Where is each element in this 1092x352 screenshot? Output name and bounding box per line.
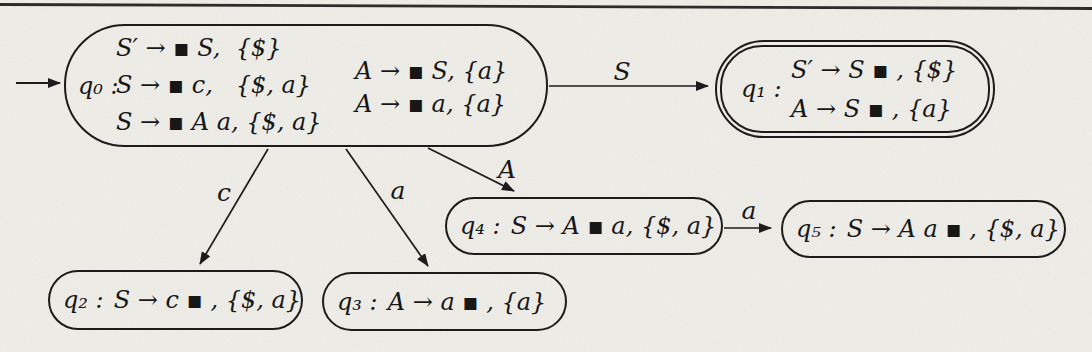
state-q0: q₀ : S′ → ▪ S, {$} S → ▪ c, {$, a} S → ▪… (64, 24, 548, 147)
state-q1-accepting: q₁ : S′ → S ▪ , {$} A → S ▪ , {a} (715, 40, 995, 138)
lr-item: S → A ▪ a, {$, a} (511, 214, 717, 238)
edge-label-S: S (613, 57, 630, 86)
edge-label-c: c (217, 178, 231, 207)
state-q0-items-right: A → ▪ S, {a} A → ▪ a, {a} (355, 55, 507, 121)
state-q0-label: q₀ : (78, 26, 119, 145)
lr-item: S → A a ▪ , {$, a} (847, 217, 1060, 241)
state-q1-label: q₁ : (741, 42, 782, 136)
lr-item: A → ▪ S, {a} (355, 55, 507, 88)
state-q3-label: q₃ : (337, 290, 378, 314)
lr-item: S′ → S ▪ , {$} (791, 51, 957, 90)
state-q4: q₄ : S → A ▪ a, {$, a} (445, 197, 723, 255)
state-q0-items-left: S′ → ▪ S, {$} S → ▪ c, {$, a} S → ▪ A a,… (116, 30, 322, 141)
edge-label-A: A (496, 155, 516, 184)
state-q5: q₅ : S → A a ▪ , {$, a} (781, 200, 1066, 258)
state-q2-label: q₂ : (63, 288, 104, 312)
scanned-page: { "page": { "background": "#efede8", "in… (0, 0, 1092, 352)
state-q4-label: q₄ : (460, 214, 501, 238)
lr-item: S → ▪ A a, {$, a} (116, 104, 322, 141)
edge-label-a2: a (742, 196, 757, 225)
state-q2: q₂ : S → c ▪ , {$, a} (48, 270, 303, 330)
edge-label-a1: a (391, 176, 406, 205)
lr-item: S → c ▪ , {$, a} (114, 288, 301, 312)
state-q3: q₃ : A → a ▪ , {a} (322, 272, 567, 331)
lr-item: A → ▪ a, {a} (355, 88, 507, 121)
state-q1-items: S′ → S ▪ , {$} A → S ▪ , {a} (791, 51, 957, 129)
state-q5-label: q₅ : (796, 217, 837, 241)
lr-item: S′ → ▪ S, {$} (116, 30, 322, 67)
lr-item: A → S ▪ , {a} (791, 90, 957, 129)
lr-item: S → ▪ c, {$, a} (116, 67, 322, 104)
lr-item: A → a ▪ , {a} (388, 290, 547, 314)
